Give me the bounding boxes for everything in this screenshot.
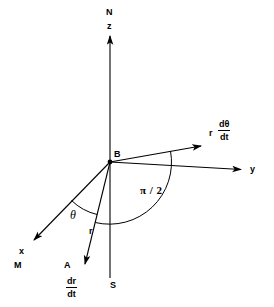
transverse-rate-fraction: dθ dt bbox=[218, 119, 230, 143]
origin-label-b: B bbox=[114, 150, 121, 159]
radial-vector-line bbox=[85, 162, 110, 264]
transverse-vector-line bbox=[110, 146, 201, 162]
y-axis-label: y bbox=[250, 165, 255, 174]
z-axis-south-label: S bbox=[110, 281, 116, 290]
z-axis-north-label: N bbox=[106, 8, 113, 17]
origin-point-B bbox=[108, 160, 113, 165]
radial-vector-label-r: r bbox=[89, 227, 93, 236]
x-axis-end-label-m: M bbox=[14, 261, 22, 270]
transverse-coefficient-r: r bbox=[209, 128, 213, 138]
radial-vector-tip-label-a: A bbox=[64, 261, 71, 270]
radial-rate-denominator: dt bbox=[66, 288, 77, 299]
x-axis-label: x bbox=[19, 247, 24, 256]
z-axis-label: z bbox=[107, 22, 112, 31]
transverse-rate-numerator: dθ bbox=[218, 119, 230, 131]
diagram-canvas bbox=[0, 0, 274, 307]
right-angle-label: π / 2 bbox=[140, 185, 163, 196]
theta-angle-label: θ bbox=[70, 209, 76, 221]
radial-rate-numerator: dr bbox=[66, 276, 77, 288]
figure-root: N z S y x M B A r θ π / 2 dr dt r dθ dt bbox=[0, 0, 274, 307]
y-axis-line bbox=[110, 162, 241, 170]
transverse-rate-denominator: dt bbox=[218, 131, 230, 142]
radial-rate-fraction: dr dt bbox=[66, 276, 77, 300]
